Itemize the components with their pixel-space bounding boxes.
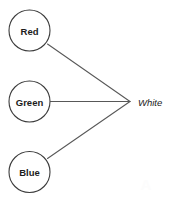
edge-group xyxy=(48,44,131,159)
edge-blue-to-white xyxy=(48,102,131,159)
node-red-label: Red xyxy=(21,26,39,37)
node-blue-label: Blue xyxy=(19,167,40,178)
node-green[interactable]: Green xyxy=(9,81,50,122)
node-blue[interactable]: Blue xyxy=(9,152,50,193)
edge-red-to-white xyxy=(48,44,131,102)
watermark-text: A xyxy=(141,176,152,193)
node-red[interactable]: Red xyxy=(9,10,50,51)
color-mixing-diagram: Red Green Blue White A xyxy=(0,0,170,201)
output-white-label: White xyxy=(138,97,162,108)
node-green-label: Green xyxy=(16,97,44,108)
diagram-canvas: Red Green Blue White A xyxy=(0,0,170,201)
